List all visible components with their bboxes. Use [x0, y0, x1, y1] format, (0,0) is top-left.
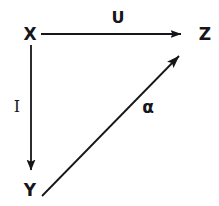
- commutative-diagram: X Y Z U I α: [0, 0, 219, 206]
- node-label-z: Z: [199, 26, 211, 43]
- node-label-y: Y: [24, 182, 36, 199]
- edge-label-alpha: α: [142, 99, 154, 116]
- edge-label-u: U: [112, 10, 125, 26]
- edge-label-i: I: [14, 99, 20, 115]
- node-label-x: X: [23, 26, 36, 43]
- edge-y-to-z-line: [42, 56, 179, 196]
